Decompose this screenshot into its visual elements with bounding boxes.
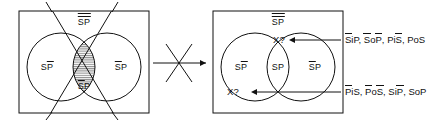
left-region-label-p-bar: P [47,63,53,72]
right-center-region-label: SP [272,63,284,72]
ann-top-4-pos: PoS [407,34,425,45]
marker-top-x-question: X? [273,35,285,45]
ann-top-2-s-bar: S [364,35,370,45]
left-center-region-label: SP [78,82,90,91]
logic-venn-figure: SP SP SP SP SP SP SP SP X? X? SiP, SoP, … [0,0,431,121]
right-region-label-s-bar: S [309,63,315,72]
marker-top-label: X? [273,34,285,45]
left-region-label-p: P [121,62,127,72]
left-center-label-p: P [84,81,90,91]
left-region-label-s-bar-p: SP [115,63,127,72]
ann-top-3-pi: Pi [387,34,395,45]
ann-top-1-ip: iP [351,34,358,45]
right-universe-label-text: SP [272,18,284,27]
ann-bot-3-p-bar: P [397,87,403,97]
venn-diagram-canvas [0,0,431,121]
ann-bot-2-s-bar: S [377,87,383,97]
ann-bot-4-sop: SoP [408,86,426,97]
right-region-label-p: P [315,62,321,72]
ann-top-2-p-bar: P [376,35,382,45]
ann-bot-3-si: Si [388,86,396,97]
left-region-label-sp-bar: SP [41,63,53,72]
ann-bot-1-p-bar: P [345,87,351,97]
right-region-label-p-bar: P [241,63,247,72]
left-region-label-s-bar: S [115,63,121,72]
left-universe-label-text: SP [78,18,90,27]
right-region-label-sp-bar: SP [235,63,247,72]
right-universe-label: SP [272,18,284,27]
right-center-label-p: P [278,62,284,72]
left-center-label-s-bar: S [78,82,84,91]
ann-bot-2-p-bar: P [365,87,371,97]
does-not-imply-arrow [153,44,206,82]
left-universe-label: SP [78,18,90,27]
ann-top-1-s-bar: S [345,35,351,45]
right-region-label-s-bar-p: SP [309,63,321,72]
ann-top-3-s-bar: S [396,35,402,45]
ann-bot-1-is: iS [351,86,359,97]
marker-bottom-x-question: X? [227,87,239,97]
annotation-top: SiP, SoP, PiS, PoS [345,35,425,45]
annotation-bottom: PiS, PoS, SiP, SoP [345,87,426,97]
marker-bottom-label: X? [227,86,239,97]
arrow-head [200,60,206,66]
